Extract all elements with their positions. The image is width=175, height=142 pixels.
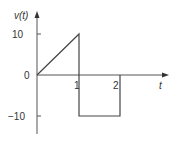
y-axis-arrow-icon [35, 11, 40, 18]
y-axis-label: v(t) [14, 10, 28, 21]
y-tick-label-10: 10 [12, 29, 24, 40]
x-tick-label-2: 2 [113, 80, 119, 91]
x-tick-label-1: 1 [74, 80, 80, 91]
y-tick-label-0: 0 [24, 70, 30, 81]
voltage-chart: v(t) t 10 0 −10 1 2 [0, 0, 175, 142]
x-axis-label: t [159, 80, 163, 91]
y-tick-label-neg10: −10 [8, 111, 25, 122]
x-axis-arrow-icon [162, 73, 169, 78]
